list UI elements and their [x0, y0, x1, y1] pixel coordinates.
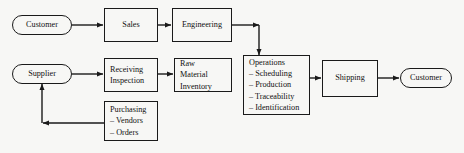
node-supplier-label: Supplier [13, 69, 71, 80]
node-operations-item-3: – Identification [249, 102, 309, 113]
node-purchasing[interactable]: Purchasing – Vendors – Orders [104, 101, 158, 141]
node-raw-material-inventory[interactable]: Raw Material Inventory [174, 58, 232, 92]
node-purchasing-item-1: – Orders [110, 127, 157, 138]
node-sales-label: Sales [105, 20, 157, 31]
node-raw-material-inventory-label-line2: Material [180, 69, 231, 80]
node-raw-material-inventory-label-line3: Inventory [180, 81, 231, 92]
node-operations-item-2: – Traceability [249, 91, 309, 102]
node-receiving-inspection-label-line1: Receiving [110, 64, 157, 75]
node-operations-item-0: – Scheduling [249, 68, 309, 79]
node-customer-end-label: Customer [401, 73, 451, 84]
node-purchasing-item-0: – Vendors [110, 115, 157, 126]
node-customer-start-label: Customer [13, 20, 71, 31]
node-customer-end[interactable]: Customer [400, 68, 452, 88]
node-shipping-label: Shipping [323, 73, 377, 84]
node-operations-label: Operations [249, 57, 309, 68]
node-receiving-inspection[interactable]: Receiving Inspection [104, 58, 158, 92]
node-operations-item-1: – Production [249, 79, 309, 90]
node-raw-material-inventory-label-line1: Raw [180, 58, 231, 69]
node-purchasing-label: Purchasing [110, 104, 157, 115]
node-shipping[interactable]: Shipping [322, 60, 378, 97]
node-supplier[interactable]: Supplier [12, 64, 72, 84]
node-customer-start[interactable]: Customer [12, 15, 72, 35]
node-operations[interactable]: Operations – Scheduling – Production – T… [243, 55, 310, 115]
node-engineering[interactable]: Engineering [172, 8, 232, 42]
node-receiving-inspection-label-line2: Inspection [110, 75, 157, 86]
node-sales[interactable]: Sales [104, 8, 158, 42]
node-engineering-label: Engineering [173, 20, 231, 31]
process-flow-diagram: Customer Sales Engineering Supplier Rece… [0, 0, 464, 153]
